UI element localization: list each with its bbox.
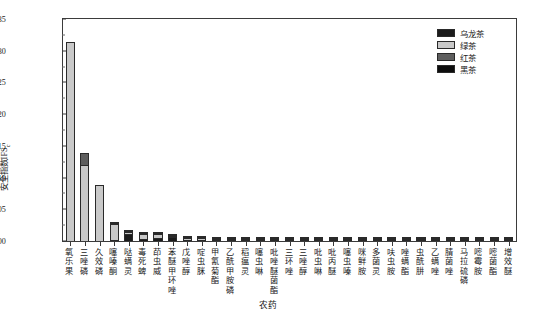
bar-segment <box>80 153 89 165</box>
bar-segment <box>475 240 484 241</box>
bar-segment <box>460 240 469 241</box>
x-tick-label: 氧乐果 <box>63 248 76 276</box>
y-axis-title: 安全指数IFSc <box>0 88 11 248</box>
legend-item[interactable]: 黑茶 <box>437 63 511 74</box>
bar-segment <box>402 240 411 241</box>
x-tick-label: 苯醚甲环唑 <box>165 248 178 295</box>
bar-segment <box>168 237 177 241</box>
bar-stack[interactable] <box>504 237 513 241</box>
bar-stack[interactable] <box>446 237 455 241</box>
x-tick-mark <box>85 242 86 246</box>
bar-stack[interactable] <box>373 237 382 241</box>
bar-stack[interactable] <box>139 232 148 241</box>
bar-segment <box>95 185 104 241</box>
bar-stack[interactable] <box>95 185 104 241</box>
y-axis-title-subscript: c <box>5 144 11 147</box>
bar-segment <box>490 240 499 241</box>
bar-stack[interactable] <box>212 237 221 241</box>
x-tick-label: 毒死蜱 <box>136 248 149 276</box>
x-tick-label: 咪鲜胺 <box>355 248 368 276</box>
x-tick-label: 三唑磷 <box>77 248 90 276</box>
bar-stack[interactable] <box>241 237 250 241</box>
bar-stack[interactable] <box>153 232 162 241</box>
x-tick-mark <box>494 242 495 246</box>
bar-stack[interactable] <box>329 237 338 241</box>
x-tick-label: 哒螨灵 <box>121 248 134 276</box>
legend-item[interactable]: 绿茶 <box>437 39 511 50</box>
bar-stack[interactable] <box>358 237 367 241</box>
bar-stack[interactable] <box>475 237 484 241</box>
bar-stack[interactable] <box>80 153 89 241</box>
legend-label: 黑茶 <box>460 63 476 75</box>
legend-swatch <box>437 29 455 37</box>
x-tick-mark <box>260 242 261 246</box>
legend-label: 乌龙茶 <box>460 27 484 39</box>
y-axis-title-text: 安全指数IFS <box>0 147 9 191</box>
x-tick-label: 嘧霉胺 <box>472 248 485 276</box>
x-tick-label: 三环唑 <box>282 248 295 276</box>
x-tick-mark <box>392 242 393 246</box>
x-tick-label: 稻瘟灵 <box>238 248 251 276</box>
x-tick-mark <box>333 242 334 246</box>
bar-stack[interactable] <box>124 230 133 241</box>
x-tick-mark <box>202 242 203 246</box>
x-tick-label: 戊唑醇 <box>180 248 193 276</box>
bar-stack[interactable] <box>66 42 75 241</box>
x-tick-mark <box>450 242 451 246</box>
x-tick-mark <box>363 242 364 246</box>
bar-stack[interactable] <box>314 237 323 241</box>
bar-segment <box>373 240 382 241</box>
x-tick-label: 马拉硫磷 <box>457 248 470 286</box>
x-tick-mark <box>406 242 407 246</box>
chart-legend: 乌龙茶绿茶红茶黑茶 <box>437 27 511 75</box>
x-tick-mark <box>231 242 232 246</box>
bar-segment <box>66 42 75 241</box>
bar-stack[interactable] <box>227 237 236 241</box>
bar-stack[interactable] <box>168 234 177 241</box>
x-tick-label: 乙螨唑 <box>428 248 441 276</box>
legend-item[interactable]: 红茶 <box>437 51 511 62</box>
x-tick-label: 虫酰肼 <box>414 248 427 276</box>
x-tick-mark <box>319 242 320 246</box>
bar-stack[interactable] <box>387 237 396 241</box>
bar-stack[interactable] <box>197 236 206 241</box>
bar-segment <box>227 240 236 241</box>
bar-stack[interactable] <box>183 236 192 241</box>
legend-item[interactable]: 乌龙茶 <box>437 27 511 38</box>
bar-stack[interactable] <box>460 237 469 241</box>
x-tick-label: 唑螨酯 <box>399 248 412 276</box>
bar-stack[interactable] <box>343 237 352 241</box>
bar-stack[interactable] <box>270 237 279 241</box>
bar-segment <box>110 240 119 241</box>
bar-segment <box>139 239 148 241</box>
bar-stack[interactable] <box>431 237 440 241</box>
x-tick-label: 乙酰甲胺磷 <box>224 248 237 295</box>
bar-segment <box>124 234 133 241</box>
bar-stack[interactable] <box>490 237 499 241</box>
x-tick-mark <box>173 242 174 246</box>
x-tick-mark <box>246 242 247 246</box>
x-tick-label: 噻虫啉 <box>253 248 266 276</box>
bar-segment <box>153 238 162 241</box>
x-tick-mark <box>377 242 378 246</box>
bar-stack[interactable] <box>110 222 119 241</box>
bar-stack[interactable] <box>285 237 294 241</box>
bar-stack[interactable] <box>416 237 425 241</box>
bar-segment <box>256 240 265 241</box>
bar-stack[interactable] <box>402 237 411 241</box>
bar-stack[interactable] <box>256 237 265 241</box>
bar-segment <box>329 240 338 241</box>
x-tick-label: 甲氰菊酯 <box>209 248 222 286</box>
legend-swatch <box>437 65 455 73</box>
x-tick-mark <box>348 242 349 246</box>
x-tick-mark <box>436 242 437 246</box>
x-tick-mark <box>158 242 159 246</box>
x-tick-label: 久效磷 <box>92 248 105 276</box>
bar-stack[interactable] <box>300 237 309 241</box>
x-tick-mark <box>290 242 291 246</box>
x-tick-label: 噻嗪酮 <box>107 248 120 276</box>
bar-segment <box>446 240 455 241</box>
x-tick-label: 吡虫啉 <box>311 248 324 276</box>
x-tick-label: 增效醚 <box>501 248 514 276</box>
y-tick-label: 0.0025 <box>0 78 6 87</box>
